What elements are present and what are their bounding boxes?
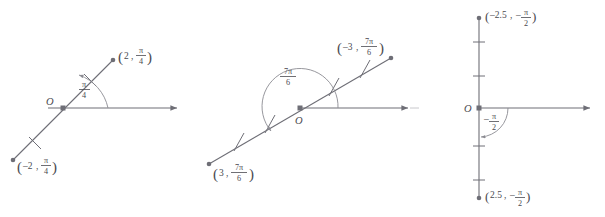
- paren-open: (: [213, 166, 218, 183]
- point-label-top-3: ( –2.5 , – π 2 ): [485, 8, 536, 28]
- point-label-r-top-3: –2.5: [489, 10, 507, 20]
- diagram-canvas: O π 4 ( 2 , π 4 ) ( –: [0, 0, 605, 217]
- angle-label-numerator-2: 7π: [284, 67, 293, 76]
- paren-close: ): [532, 9, 536, 24]
- angle-label-denominator-1: 4: [82, 91, 86, 100]
- angle-label-denominator-2: 6: [286, 78, 290, 87]
- point-label-theta-den-upper-1: 4: [139, 57, 143, 66]
- paren-open: (: [337, 40, 342, 57]
- point-label-theta-den-bottom-3: 2: [518, 199, 522, 208]
- point-label-theta-den-lower-1: 4: [44, 167, 48, 176]
- origin-point-1: [61, 106, 66, 111]
- paren-close: ): [249, 166, 254, 183]
- point-dot-top-3: [477, 16, 482, 21]
- point-label-theta-num-lower-1: π: [44, 156, 49, 165]
- angle-label-denominator-3: 2: [492, 123, 496, 132]
- point-label-theta-num-lower-2: 7π: [235, 163, 244, 172]
- point-label-theta-sign-bottom-3: –: [509, 190, 515, 200]
- point-label-r-upper-2: –3: [342, 42, 353, 52]
- point-label-theta-num-upper-2: 7π: [365, 37, 374, 46]
- comma: ,: [356, 42, 358, 52]
- point-label-theta-den-upper-2: 6: [367, 48, 371, 57]
- point-label-upper-1: ( 2 , π 4 ): [118, 46, 152, 66]
- point-label-theta-num-top-3: π: [524, 8, 529, 17]
- angle-label-numerator-1: π: [82, 80, 87, 89]
- paren-open: (: [485, 189, 489, 204]
- polar-diagrams-figure: O π 4 ( 2 , π 4 ) ( –: [0, 0, 605, 217]
- comma: ,: [504, 190, 506, 200]
- point-label-theta-num-bottom-3: π: [518, 188, 523, 197]
- paren-open: (: [17, 159, 22, 176]
- origin-dot-2: [298, 106, 303, 111]
- origin-dot-3: [477, 106, 482, 111]
- comma: ,: [36, 161, 38, 171]
- paren-open: (: [118, 49, 123, 66]
- panel-2: O 7π 6 ( –3 , 7π 6 ) (: [207, 37, 408, 183]
- angle-label-sign-3: –: [483, 114, 489, 124]
- point-dot-upper-1: [111, 58, 116, 63]
- angle-label-numerator-3: π: [492, 112, 497, 121]
- point-dot-lower-2: [207, 162, 212, 167]
- point-label-lower-2: ( 3 , 7π 6 ): [213, 163, 254, 183]
- point-label-bottom-3: ( 2.5 , – π 2 ): [485, 188, 530, 208]
- panel-3: O – π 2 ( –2.5 , – π 2 ): [410, 8, 590, 208]
- panel-1: O π 4 ( 2 , π 4 ) ( –: [11, 46, 177, 176]
- paren-open: (: [485, 9, 489, 24]
- paren-close: ): [379, 40, 384, 57]
- paren-close: ): [52, 159, 57, 176]
- angle-label-1: π 4: [79, 80, 90, 100]
- origin-label-2: O: [295, 115, 303, 126]
- point-dot-upper-2: [389, 56, 394, 61]
- angle-label-2: 7π 6: [280, 67, 296, 87]
- origin-label-1: O: [46, 96, 54, 107]
- origin-dot-1: [61, 106, 66, 111]
- point-label-theta-sign-top-3: –: [515, 10, 521, 20]
- terminal-line-segment-2: [209, 58, 391, 164]
- comma: ,: [510, 10, 512, 20]
- tick-mark: [329, 78, 339, 96]
- tick-mark: [29, 137, 41, 149]
- point-label-lower-1: ( –2 , π 4 ): [17, 156, 57, 176]
- comma: ,: [226, 168, 228, 178]
- point-label-theta-den-top-3: 2: [524, 19, 528, 28]
- paren-close: ): [147, 49, 152, 66]
- origin-label-3: O: [464, 103, 472, 114]
- point-label-upper-2: ( –3 , 7π 6 ): [337, 37, 384, 57]
- point-label-r-bottom-3: 2.5: [490, 190, 502, 200]
- tick-mark: [360, 60, 370, 78]
- point-label-theta-num-upper-1: π: [139, 46, 144, 55]
- point-label-r-lower-1: –2: [22, 161, 33, 171]
- point-dot-bottom-3: [477, 196, 482, 201]
- comma: ,: [131, 51, 133, 61]
- tick-mark: [234, 133, 244, 151]
- point-label-r-lower-2: 3: [219, 168, 224, 178]
- paren-close: ): [526, 189, 530, 204]
- angle-label-3: – π 2: [483, 112, 499, 132]
- point-label-r-upper-1: 2: [124, 51, 129, 61]
- point-dot-lower-1: [11, 158, 16, 163]
- point-label-theta-den-lower-2: 6: [237, 174, 241, 183]
